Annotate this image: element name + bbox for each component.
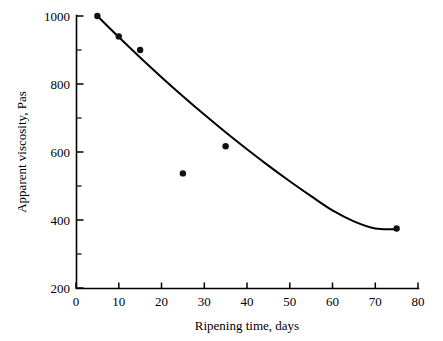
y-tick-label: 800 <box>51 77 71 92</box>
data-point <box>137 47 143 53</box>
x-tick-label: 10 <box>112 294 125 309</box>
x-tick-label: 0 <box>73 294 80 309</box>
data-point <box>116 33 122 39</box>
y-tick-label: 600 <box>51 145 71 160</box>
y-axis-title: Apparent viscosity, Pas <box>14 91 29 213</box>
x-tick-label: 20 <box>155 294 168 309</box>
x-tick-label: 50 <box>283 294 296 309</box>
data-point <box>180 170 186 176</box>
x-tick-label: 80 <box>412 294 425 309</box>
x-tick-label: 60 <box>326 294 339 309</box>
x-tick-label: 70 <box>369 294 382 309</box>
data-point <box>393 225 399 231</box>
x-tick-label: 40 <box>241 294 254 309</box>
figure-container: 1000 800 600 400 200 0 10 20 30 40 50 60… <box>0 0 443 341</box>
x-tick-label: 30 <box>198 294 211 309</box>
y-tick-label: 200 <box>51 281 71 296</box>
data-point <box>94 13 100 19</box>
y-tick-label: 400 <box>51 213 71 228</box>
y-tick-label: 1000 <box>44 9 70 24</box>
x-axis-title: Ripening time, days <box>195 318 299 333</box>
data-point <box>222 143 228 149</box>
viscosity-scatter-chart: 1000 800 600 400 200 0 10 20 30 40 50 60… <box>0 0 443 341</box>
